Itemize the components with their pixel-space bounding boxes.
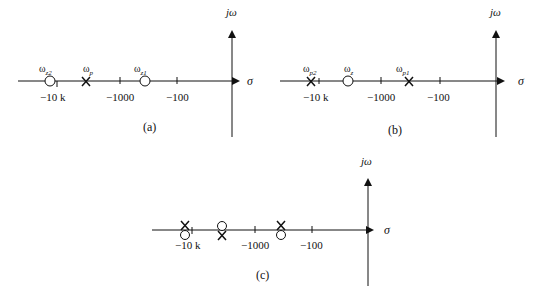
tick-label: −1000: [367, 91, 396, 103]
tick-label: −1000: [106, 91, 135, 103]
pole-marker: [218, 231, 226, 240]
pole-zero-figure: σ jω −10 k −1000 −100 ωz2 ωp ωz1 (a) σ j…: [0, 0, 537, 298]
tick-label: −100: [166, 91, 189, 103]
panel-b: σ jω −10 k −1000 −100 ωp2 ωz ωp1 (b): [280, 6, 525, 137]
zero-marker: [45, 76, 55, 86]
jw-label: jω: [224, 6, 237, 18]
zero-marker: [343, 76, 353, 86]
panel-a: σ jω −10 k −1000 −100 ωz2 ωp ωz1 (a): [18, 6, 254, 137]
sigma-label: σ: [384, 223, 391, 237]
caption: (a): [143, 120, 156, 134]
zero-marker: [218, 222, 227, 231]
pole-marker: [181, 221, 189, 230]
panel-c: σ jω −10 k −1000 −100 (c): [152, 155, 391, 286]
tick-label: −10 k: [40, 91, 66, 103]
marker-label: ωp: [83, 63, 94, 77]
marker-label: ωz: [344, 63, 354, 77]
tick-label: −10 k: [175, 239, 201, 251]
jw-label: jω: [359, 155, 372, 167]
tick-label: −100: [300, 239, 323, 251]
sigma-label: σ: [518, 74, 525, 88]
tick-label: −1000: [241, 239, 270, 251]
zero-marker: [140, 76, 150, 86]
zero-marker: [277, 231, 286, 240]
marker-label: ωp1: [396, 63, 410, 77]
jw-label: jω: [488, 6, 501, 18]
caption: (b): [388, 123, 402, 137]
marker-label: ωz1: [134, 63, 147, 77]
caption: (c): [256, 268, 269, 282]
marker-label: ωz2: [39, 63, 52, 77]
sigma-label: σ: [247, 74, 254, 88]
marker-label: ωp2: [303, 63, 317, 77]
tick-label: −100: [427, 91, 450, 103]
pole-marker: [277, 221, 285, 230]
zero-marker: [181, 231, 190, 240]
tick-label: −10 k: [303, 91, 329, 103]
